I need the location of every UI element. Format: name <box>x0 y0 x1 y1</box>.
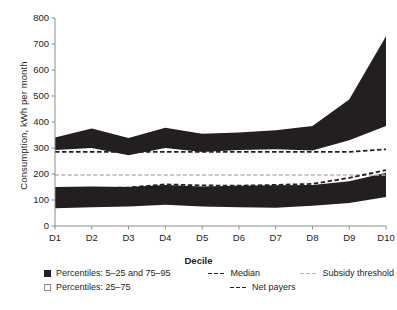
y-tick-label: 100 <box>33 194 49 205</box>
y-tick-label: 0 <box>44 220 49 231</box>
legend-item-subsidy: Subsidy threshold <box>300 268 394 278</box>
legend-label-inner-band: Percentiles: 25–75 <box>56 282 131 292</box>
legend-label-outer-band: Percentiles: 5–25 and 75–95 <box>56 268 171 278</box>
legend-item-net-payers: Net payers <box>230 282 334 292</box>
y-tick-label: 600 <box>33 64 49 75</box>
chart-figure: Consumption, kWh per month 0100200300400… <box>0 0 397 310</box>
band-lower-5-25 <box>55 173 386 209</box>
plot-area: 0100200300400500600700800D1D2D3D4D5D6D7D… <box>0 0 397 250</box>
y-tick-label: 500 <box>33 90 49 101</box>
dashed-line-light-icon <box>300 270 317 277</box>
x-tick-label: D3 <box>122 232 134 243</box>
legend-label-net-payers: Net payers <box>252 282 296 292</box>
y-tick-label: 300 <box>33 142 49 153</box>
legend-row-1: Percentiles: 5–25 and 75–95 Median Subsi… <box>44 268 394 282</box>
x-tick-label: D1 <box>49 232 61 243</box>
x-axis-title: Decile <box>0 255 397 266</box>
band-upper-75-95 <box>55 36 386 155</box>
legend-label-subsidy: Subsidy threshold <box>322 268 394 278</box>
x-tick-label: D7 <box>270 232 282 243</box>
y-tick-label: 200 <box>33 168 49 179</box>
y-tick-label: 700 <box>33 38 49 49</box>
x-tick-label: D8 <box>306 232 318 243</box>
x-tick-label: D5 <box>196 232 208 243</box>
x-tick-label: D4 <box>159 232 171 243</box>
legend-item-inner-band: Percentiles: 25–75 <box>44 282 230 292</box>
y-tick-label: 800 <box>33 12 49 23</box>
y-tick-label: 400 <box>33 116 49 127</box>
legend-item-outer-band: Percentiles: 5–25 and 75–95 <box>44 268 208 278</box>
x-tick-label: D2 <box>86 232 98 243</box>
x-tick-label: D9 <box>343 232 355 243</box>
chart-svg: 0100200300400500600700800D1D2D3D4D5D6D7D… <box>0 0 397 250</box>
dashed-line-icon <box>230 284 247 291</box>
open-square-icon <box>44 284 51 291</box>
x-tick-label: D6 <box>233 232 245 243</box>
legend-item-median: Median <box>208 268 300 278</box>
chart-legend: Percentiles: 5–25 and 75–95 Median Subsi… <box>44 268 394 296</box>
filled-square-icon <box>44 270 51 277</box>
legend-row-2: Percentiles: 25–75 Net payers <box>44 282 394 296</box>
legend-label-median: Median <box>230 268 260 278</box>
dashed-line-icon <box>208 270 225 277</box>
x-tick-label: D10 <box>377 232 394 243</box>
